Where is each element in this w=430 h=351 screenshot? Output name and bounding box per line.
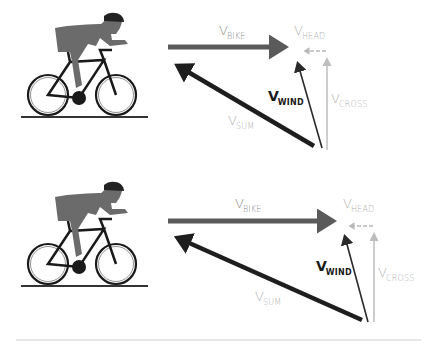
label-v-cross: VCROSS bbox=[331, 92, 368, 105]
diagram-bottom: VBIKE VHEAD VWIND VCROSS VSUM bbox=[0, 175, 430, 351]
bottom-divider bbox=[16, 339, 421, 341]
label-v-sum: VSUM bbox=[255, 290, 281, 303]
label-v-bike: VBIKE bbox=[219, 24, 246, 37]
label-v-head: VHEAD bbox=[294, 24, 325, 37]
v-wind-arrow bbox=[345, 237, 368, 322]
label-v-head: VHEAD bbox=[343, 197, 374, 210]
diagram-top: VBIKE VHEAD VWIND VCROSS VSUM bbox=[0, 0, 430, 175]
helmet bbox=[104, 182, 124, 191]
label-v-wind: VWIND bbox=[316, 259, 352, 273]
cyclist-illustration bbox=[21, 182, 148, 286]
vector-diagram-top bbox=[0, 0, 430, 175]
cyclist-illustration bbox=[21, 13, 148, 117]
label-v-wind: VWIND bbox=[268, 89, 304, 103]
label-v-cross: VCROSS bbox=[378, 266, 415, 279]
v-sum-arrow bbox=[178, 238, 362, 320]
label-v-sum: VSUM bbox=[228, 114, 254, 127]
helmet bbox=[104, 13, 124, 22]
label-v-bike: VBIKE bbox=[235, 197, 262, 210]
